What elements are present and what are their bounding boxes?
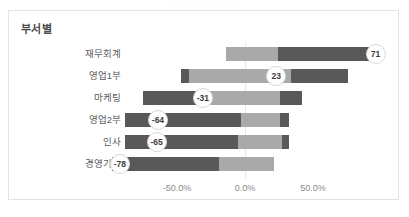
category-label: 영업1부 (21, 65, 121, 87)
value-badge: -78 (110, 154, 130, 174)
bar-segment-light[interactable] (203, 91, 281, 105)
chart-row: 영업2부-64 (9, 109, 398, 131)
bar-segment-light[interactable] (226, 47, 278, 61)
bar-segment-dark[interactable] (280, 113, 288, 127)
bar-segment-dark[interactable] (291, 69, 348, 83)
value-badge: -31 (193, 88, 213, 108)
chart-plot-area: 재무회계71영업1부23마케팅-31영업2부-64인사-65경영기획-78 -5… (9, 41, 398, 199)
x-axis: -50.0%0.0%50.0% (9, 183, 398, 199)
screenshot-root: 부서별 기여도 분석 부서별 재무회계71영업1부23마케팅-31영업2부-64… (0, 0, 409, 217)
chart-row: 재무회계71 (9, 43, 398, 65)
bar-segment-light[interactable] (219, 157, 273, 171)
bar-segment-light[interactable] (238, 135, 282, 149)
chart-card: 부서별 재무회계71영업1부23마케팅-31영업2부-64인사-65경영기획-7… (8, 10, 399, 200)
value-badge: 71 (366, 44, 386, 64)
chart-row: 마케팅-31 (9, 87, 398, 109)
value-badge: -65 (147, 132, 167, 152)
chart-row: 경영기획-78 (9, 153, 398, 175)
category-label: 마케팅 (21, 87, 121, 109)
bar-segment-dark[interactable] (125, 135, 238, 149)
bar[interactable] (143, 91, 302, 105)
chart-card-title: 부서별 (21, 20, 52, 36)
bar-segment-dark[interactable] (181, 69, 189, 83)
bar-segment-dark[interactable] (125, 113, 241, 127)
value-badge: -64 (148, 110, 168, 130)
bar[interactable] (112, 157, 274, 171)
chart-row: 영업1부23 (9, 65, 398, 87)
value-badge: 23 (266, 66, 286, 86)
category-label: 인사 (21, 131, 121, 153)
category-label: 영업2부 (21, 109, 121, 131)
chart-row: 인사-65 (9, 131, 398, 153)
axis-tick-label: 50.0% (300, 183, 326, 193)
bar[interactable] (181, 69, 348, 83)
page-title: 부서별 기여도 분석 (0, 0, 409, 7)
bar-segment-dark[interactable] (280, 91, 302, 105)
bar-segment-light[interactable] (241, 113, 280, 127)
category-label: 재무회계 (21, 43, 121, 65)
bar[interactable] (226, 47, 381, 61)
axis-tick-label: -50.0% (163, 183, 192, 193)
category-label: 경영기획 (21, 153, 121, 175)
bar-segment-dark[interactable] (282, 135, 289, 149)
axis-tick-label: 0.0% (235, 183, 256, 193)
